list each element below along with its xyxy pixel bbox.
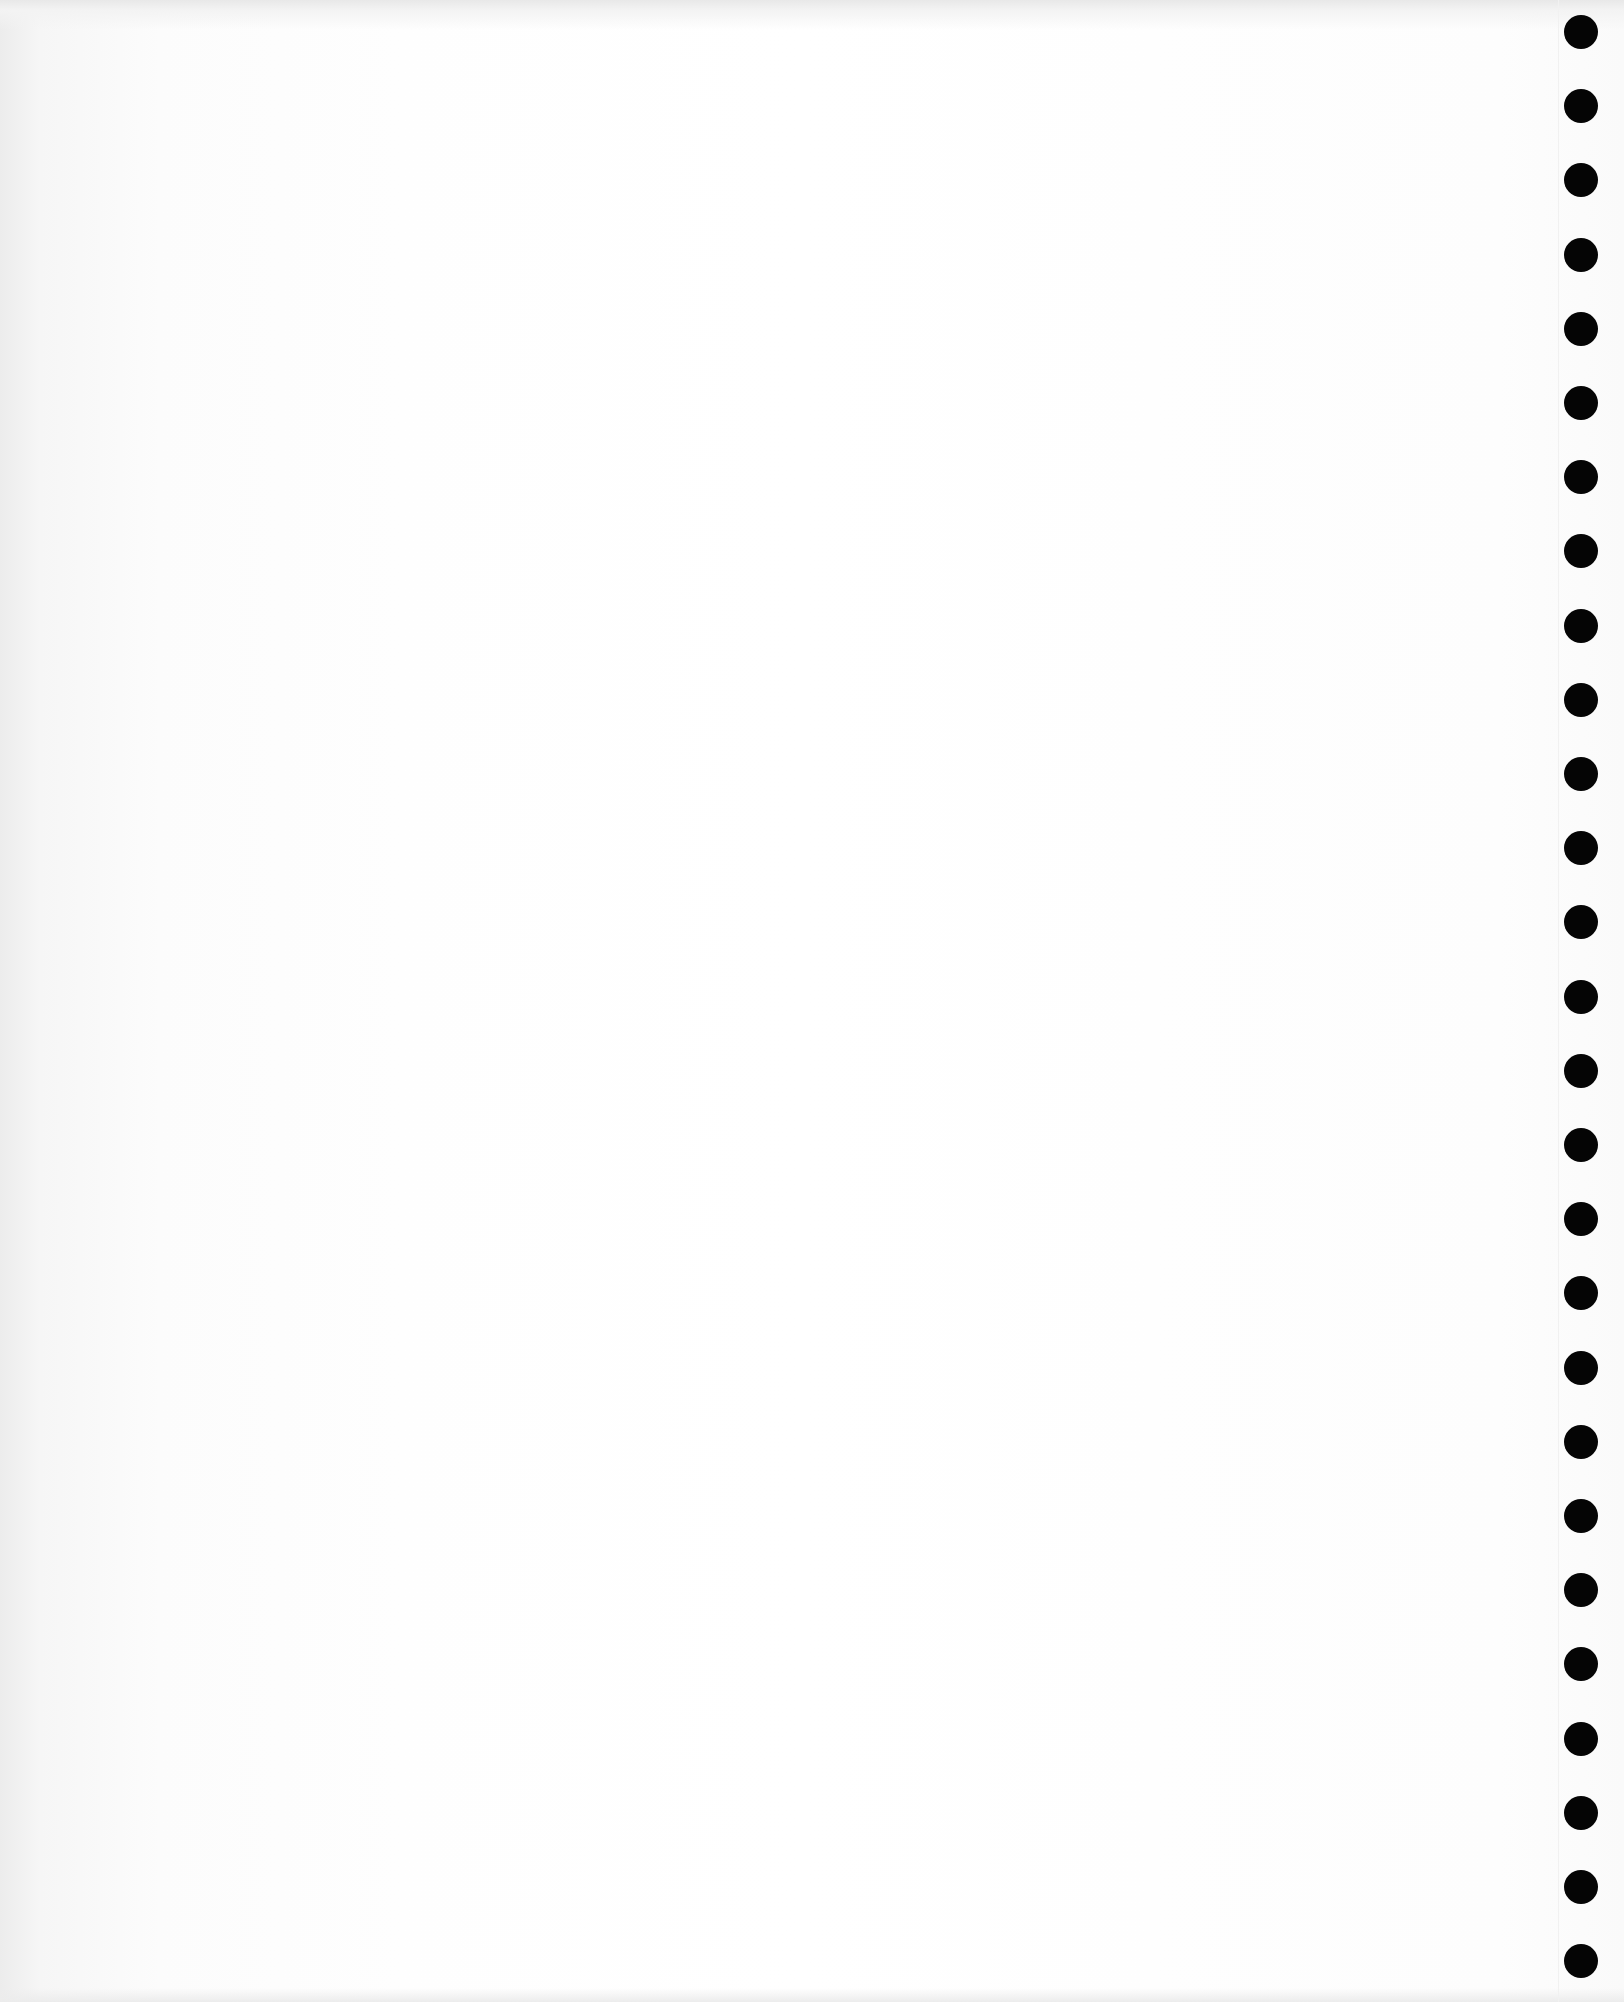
feed-hole bbox=[1564, 534, 1598, 568]
feed-hole bbox=[1564, 831, 1598, 865]
feed-hole bbox=[1564, 1870, 1598, 1904]
feed-hole bbox=[1564, 1202, 1598, 1236]
feed-hole bbox=[1564, 460, 1598, 494]
feed-hole bbox=[1564, 1647, 1598, 1681]
top-edge-shadow bbox=[0, 0, 1624, 30]
blank-paper-sheet bbox=[0, 0, 1624, 2002]
feed-hole bbox=[1564, 15, 1598, 49]
bottom-edge-shadow bbox=[0, 1988, 1624, 2002]
feed-hole bbox=[1564, 163, 1598, 197]
feed-hole bbox=[1564, 1351, 1598, 1385]
feed-hole bbox=[1564, 89, 1598, 123]
feed-hole bbox=[1564, 1944, 1598, 1978]
feed-hole bbox=[1564, 1128, 1598, 1162]
feed-hole bbox=[1564, 1573, 1598, 1607]
feed-hole bbox=[1564, 609, 1598, 643]
feed-hole bbox=[1564, 1796, 1598, 1830]
feed-hole bbox=[1564, 757, 1598, 791]
feed-hole bbox=[1564, 1054, 1598, 1088]
feed-hole bbox=[1564, 683, 1598, 717]
feed-hole bbox=[1564, 1276, 1598, 1310]
feed-hole bbox=[1564, 238, 1598, 272]
feed-hole bbox=[1564, 1722, 1598, 1756]
feed-hole bbox=[1564, 386, 1598, 420]
feed-hole bbox=[1564, 905, 1598, 939]
feed-hole bbox=[1564, 1425, 1598, 1459]
feed-hole bbox=[1564, 312, 1598, 346]
feed-hole bbox=[1564, 1499, 1598, 1533]
tractor-feed-strip bbox=[1559, 0, 1624, 2002]
feed-hole bbox=[1564, 980, 1598, 1014]
